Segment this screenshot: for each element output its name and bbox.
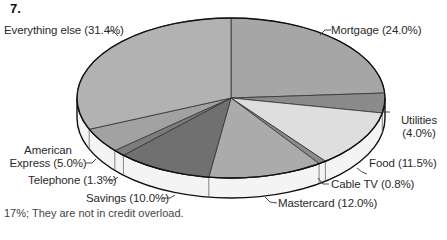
label-food: Food (11.5%) — [369, 157, 437, 170]
label-amex-line2: Express (5.0%) — [8, 157, 88, 170]
label-mastercard: Mastercard (12.0%) — [278, 197, 377, 210]
label-everything-else: Everything else (31.4%) — [4, 24, 124, 37]
label-telephone: Telephone (1.3%) — [28, 174, 117, 187]
label-amex-line1: American — [8, 144, 88, 157]
label-utilities-line1: Utilities — [395, 114, 443, 127]
label-savings: Savings (10.0%) — [86, 192, 169, 205]
label-utilities: Utilities (4.0%) — [395, 114, 443, 140]
answer-caption: 17%; They are not in credit overload. — [4, 207, 184, 219]
label-utilities-line2: (4.0%) — [395, 127, 443, 140]
label-cable-tv: Cable TV (0.8%) — [331, 178, 414, 191]
label-american-express: American Express (5.0%) — [8, 144, 88, 170]
label-mortgage: Mortgage (24.0%) — [331, 24, 421, 37]
